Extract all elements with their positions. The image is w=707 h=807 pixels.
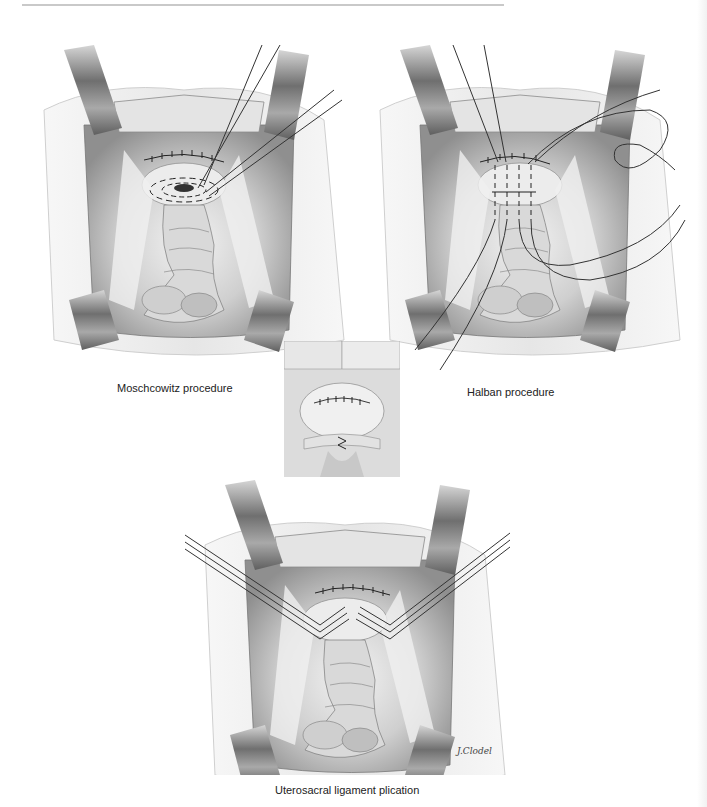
illustrator-signature: J.Clodel: [457, 746, 492, 756]
caption-halban: Halban procedure: [467, 386, 554, 398]
inset-illustration: [284, 341, 400, 477]
halban-illustration: [360, 40, 690, 370]
header-rule: [22, 4, 504, 6]
uterosacral-plication-illustration: [185, 475, 515, 775]
page-edge-shadow: [697, 0, 707, 807]
caption-uterosacral-plication: Uterosacral ligament plication: [275, 784, 419, 796]
moschcowitz-illustration: [24, 40, 354, 370]
caption-moschcowitz: Moschcowitz procedure: [117, 382, 233, 394]
